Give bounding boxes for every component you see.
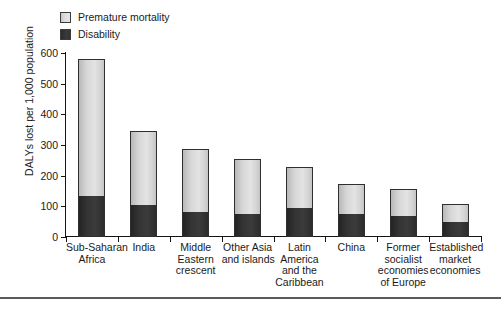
- x-axis-category-label-line: and islands: [222, 254, 274, 266]
- x-axis-category-label-line: and the: [274, 265, 326, 277]
- x-axis-category-label: LatinAmericaand theCaribbean: [274, 242, 326, 288]
- bar-segment-premature-mortality: [442, 204, 469, 222]
- x-axis-category-label-line: crescent: [170, 265, 222, 277]
- bar-segment-disability: [234, 214, 261, 237]
- x-axis-tick-origin: [66, 237, 67, 242]
- x-axis-category-label-line: China: [325, 242, 377, 254]
- bar-segment-disability: [286, 208, 313, 237]
- bar-sub-saharan-africa: [78, 59, 105, 237]
- bar-segment-premature-mortality: [390, 189, 417, 216]
- bar-segment-disability: [78, 196, 105, 237]
- legend-item-disability: Disability: [60, 27, 170, 42]
- x-axis-category-label-line: Established: [429, 242, 481, 254]
- bar-segment-premature-mortality: [78, 59, 105, 195]
- x-axis-category-label: India: [118, 242, 170, 254]
- legend-item-premature-mortality: Premature mortality: [60, 10, 170, 25]
- bar-segment-disability: [182, 212, 209, 237]
- y-axis-tick-label: 100: [40, 201, 58, 211]
- x-axis-category-label-line: Africa: [66, 254, 118, 266]
- y-axis-ticks: 0100200300400500600: [0, 0, 66, 313]
- bar-segment-premature-mortality: [182, 149, 209, 212]
- x-axis-category-label-line: Latin: [274, 242, 326, 254]
- chart-figure: Premature mortality Disability DALYs los…: [0, 0, 501, 313]
- legend-label-disability: Disability: [78, 29, 120, 40]
- x-axis-category-label: Sub-SaharanAfrica: [66, 242, 118, 265]
- x-axis-category-label: Establishedmarketeconomies: [429, 242, 481, 277]
- bar-india: [130, 131, 157, 237]
- bar-segment-premature-mortality: [234, 159, 261, 214]
- x-axis-category-label-line: Middle: [170, 242, 222, 254]
- bar-other-asia-and-islands: [234, 159, 261, 237]
- bar-latin-america-and-the-caribbean: [286, 167, 313, 237]
- y-axis-tick-label: 400: [40, 109, 58, 119]
- bar-segment-disability: [442, 222, 469, 237]
- y-axis-tick-label: 200: [40, 171, 58, 181]
- bar-segment-premature-mortality: [338, 184, 365, 214]
- x-axis-category-label: Other Asiaand islands: [222, 242, 274, 265]
- bar-segment-premature-mortality: [130, 131, 157, 205]
- x-axis-category-label-line: India: [118, 242, 170, 254]
- bar-former-socialist-economies-of-europe: [390, 189, 417, 237]
- x-axis-category-label: MiddleEasterncrescent: [170, 242, 222, 277]
- x-axis-category-label: China: [325, 242, 377, 254]
- y-axis-tick-label: 600: [40, 48, 58, 58]
- bar-middle-eastern-crescent: [182, 149, 209, 237]
- x-axis-category-label-line: Former: [377, 242, 429, 254]
- y-axis-tick-label: 300: [40, 140, 58, 150]
- bar-segment-premature-mortality: [286, 167, 313, 208]
- x-axis-category-label: Formersocialisteconomiesof Europe: [377, 242, 429, 288]
- bar-segment-disability: [390, 216, 417, 237]
- plot-area: [66, 53, 481, 237]
- x-axis-category-label-line: economies: [377, 265, 429, 277]
- x-axis-category-label-line: of Europe: [377, 277, 429, 289]
- x-axis-category-label-line: Sub-Saharan: [66, 242, 118, 254]
- x-axis-category-label-line: Other Asia: [222, 242, 274, 254]
- bar-segment-disability: [130, 205, 157, 237]
- bar-china: [338, 184, 365, 237]
- chart-legend: Premature mortality Disability: [60, 10, 170, 44]
- y-axis-tick-label: 500: [40, 79, 58, 89]
- figure-bottom-rule: [0, 297, 501, 299]
- bar-segment-disability: [338, 214, 365, 237]
- x-axis-category-label-line: Caribbean: [274, 277, 326, 289]
- bar-established-market-economies: [442, 204, 469, 237]
- y-axis-tick-label: 0: [52, 232, 58, 242]
- x-axis-category-label-line: economies: [429, 265, 481, 277]
- legend-label-premature-mortality: Premature mortality: [78, 12, 170, 23]
